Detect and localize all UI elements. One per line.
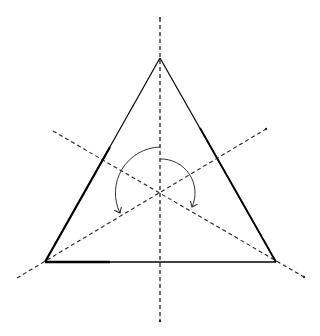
triangle-right-side-thick xyxy=(200,128,276,262)
axis-endpoint-top xyxy=(159,17,161,19)
rotation-arrows xyxy=(115,147,195,213)
symmetry-axes xyxy=(17,18,304,321)
axis-endpoint-right-down xyxy=(303,276,305,278)
diagram-svg xyxy=(0,0,320,336)
axis-left-down xyxy=(53,131,304,277)
axis-endpoint-bottom xyxy=(159,320,161,322)
triangle-left-side-thick xyxy=(45,147,110,262)
rotation-arrow-120 xyxy=(160,159,195,207)
symmetry-diagram: Rotational symmetry of an equilateral tr… xyxy=(0,0,320,336)
axis-endpoint-right-up xyxy=(265,128,267,130)
rotation-arrow-240 xyxy=(115,147,160,213)
